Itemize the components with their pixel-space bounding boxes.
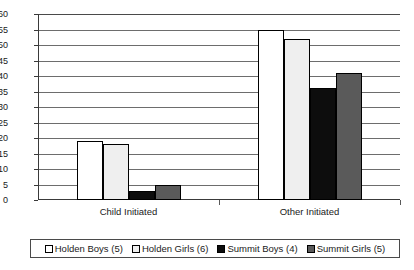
x-axis-tick — [400, 200, 401, 205]
y-axis-tick-label: 45 — [0, 57, 8, 66]
y-axis-tick — [34, 185, 38, 186]
y-axis-tick-label: 5 — [0, 181, 8, 190]
bar — [103, 144, 129, 200]
gridline — [39, 61, 400, 62]
bar-chart: 605550454035302520151050 Child Initiated… — [0, 0, 414, 270]
x-axis-category-label: Child Initiated — [38, 206, 219, 217]
y-axis-tick — [34, 61, 38, 62]
bar — [258, 30, 284, 201]
legend-item-label: Holden Girls (6) — [142, 244, 209, 254]
y-axis-tick-label: 15 — [0, 150, 8, 159]
x-axis-category-label: Other Initiated — [219, 206, 400, 217]
legend-item-label: Summit Boys (4) — [227, 244, 297, 254]
legend-item-label: Holden Boys (5) — [55, 244, 123, 254]
legend-item: Holden Girls (6) — [132, 244, 209, 254]
legend-item: Holden Boys (5) — [45, 244, 123, 254]
legend-item-label: Summit Girls (5) — [317, 244, 386, 254]
bar — [155, 185, 181, 201]
y-axis-tick-label: 0 — [0, 196, 8, 205]
legend-item: Summit Girls (5) — [307, 244, 386, 254]
bar — [129, 191, 155, 200]
y-axis-tick — [34, 169, 38, 170]
y-axis-tick-label: 30 — [0, 103, 8, 112]
y-axis-tick — [34, 123, 38, 124]
legend-swatch-icon — [45, 245, 53, 253]
gridline — [39, 45, 400, 46]
y-axis-tick-label: 10 — [0, 165, 8, 174]
y-axis-tick-label: 25 — [0, 119, 8, 128]
y-axis-tick — [34, 107, 38, 108]
x-axis-tick — [219, 200, 220, 205]
legend-item: Summit Boys (4) — [217, 244, 297, 254]
chart-legend: Holden Boys (5)Holden Girls (6)Summit Bo… — [30, 239, 400, 258]
y-axis-tick — [34, 138, 38, 139]
y-axis-tick — [34, 92, 38, 93]
y-axis-tick — [34, 76, 38, 77]
y-axis-tick-label: 40 — [0, 72, 8, 81]
gridline — [39, 14, 400, 15]
legend-swatch-icon — [217, 245, 225, 253]
y-axis-tick — [34, 154, 38, 155]
y-axis-tick-label: 35 — [0, 88, 8, 97]
bar — [77, 141, 103, 200]
y-axis-tick-label: 50 — [0, 41, 8, 50]
bar — [310, 88, 336, 200]
y-axis-tick — [34, 45, 38, 46]
y-axis-tick-label: 20 — [0, 134, 8, 143]
legend-swatch-icon — [132, 245, 140, 253]
plot-area — [38, 14, 400, 200]
legend-swatch-icon — [307, 245, 315, 253]
y-axis-tick-label: 55 — [0, 26, 8, 35]
bar — [284, 39, 310, 200]
gridline — [39, 30, 400, 31]
y-axis-tick — [34, 30, 38, 31]
bar — [336, 73, 362, 200]
y-axis-tick — [34, 14, 38, 15]
y-axis-tick — [34, 200, 38, 201]
y-axis-tick-label: 60 — [0, 10, 8, 19]
